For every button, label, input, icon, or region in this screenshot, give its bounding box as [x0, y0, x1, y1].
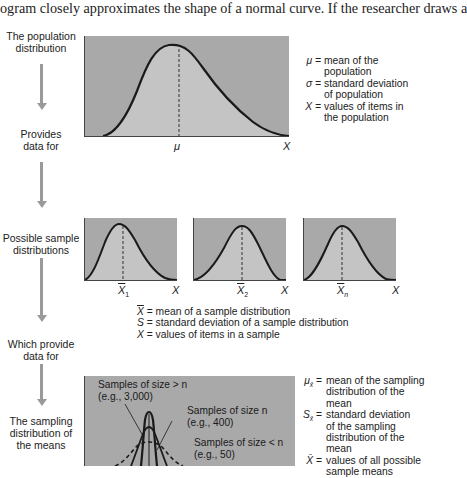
- legend-line: population: [324, 66, 432, 77]
- sample-curve-2: [194, 218, 286, 280]
- legend-line: distribution of the mean: [326, 386, 432, 409]
- sample-legend-row-values: X = values of items in a sample: [137, 329, 349, 340]
- sample-n-axis-label: X: [392, 284, 399, 296]
- legend-line: sample means: [326, 466, 432, 477]
- sample-distribution-panel-n: [303, 218, 396, 281]
- legend-text: values of items in the population: [324, 101, 432, 124]
- sample-2-mean-label: X2: [237, 284, 248, 298]
- legend-symbol: Sx̄ =: [296, 409, 326, 455]
- annotation-line: Samples of size > n: [98, 379, 187, 391]
- annotation-line: (e.g., 400): [187, 417, 267, 429]
- body-text-line: ogram closely approximates the shape of …: [0, 0, 432, 19]
- flow-arrow: [40, 364, 43, 400]
- population-distribution-panel: [84, 36, 289, 137]
- mean-subscript: n: [344, 291, 348, 298]
- legend-text: = standard deviation of a sample distrib…: [144, 317, 349, 328]
- legend-text: = mean of a sample distribution: [144, 306, 290, 317]
- label-line: distribution of: [0, 427, 82, 439]
- label-line: the means: [0, 439, 82, 451]
- legend-text: mean of the population: [324, 55, 432, 78]
- label-possible-sample-distributions: Possible sample distributions: [0, 232, 82, 256]
- legend-text: standard deviation of the sampling distr…: [326, 409, 432, 455]
- legend-line: of population: [324, 89, 432, 100]
- annotation-size-greater-than-n: Samples of size > n (e.g., 3,000): [98, 379, 187, 402]
- legend-line: mean of the sampling: [326, 375, 432, 386]
- label-line: distribution: [0, 42, 82, 54]
- sample-distribution-panel-2: [193, 218, 286, 281]
- label-which-provide-data-for: Which provide data for: [0, 338, 82, 362]
- symbol-eq: =: [316, 409, 322, 420]
- flow-arrowhead: [37, 315, 47, 322]
- legend-text: standard deviation of population: [324, 78, 432, 101]
- flow-arrowhead: [37, 399, 47, 406]
- label-population-distribution: The population distribution: [0, 30, 82, 54]
- label-line: Possible sample: [0, 232, 82, 244]
- sample-2-axis-label: X: [281, 284, 288, 296]
- legend-line: distribution of the mean: [326, 432, 432, 455]
- legend-line: of the sampling: [326, 421, 432, 432]
- symbol-main: S: [303, 409, 310, 420]
- legend-symbol: X̄ =: [296, 455, 326, 478]
- sampling-legend-row-sd: Sx̄ = standard deviation of the sampling…: [296, 409, 432, 455]
- flow-arrowhead: [37, 201, 47, 208]
- population-legend: μ = mean of the population σ = standard …: [299, 55, 432, 123]
- sampling-legend-row-xbar: X̄ = values of all possible sample means: [296, 455, 432, 478]
- label-line: distributions: [0, 244, 82, 256]
- symbol-main: X̄: [306, 455, 313, 466]
- legend-text: = values of items in a sample: [144, 329, 280, 340]
- sample-1-axis-label: X: [172, 284, 179, 296]
- population-curve: [85, 36, 289, 136]
- legend-row-mu: μ = mean of the population: [299, 55, 432, 78]
- legend-symbol: X: [137, 306, 144, 317]
- annotation-size-n: Samples of size n (e.g., 400): [187, 405, 267, 428]
- legend-row-x: X = values of items in the population: [299, 101, 432, 124]
- annotation-line: (e.g., 3,000): [98, 391, 187, 403]
- legend-line: mean of the: [324, 55, 432, 66]
- sample-curve-n: [304, 218, 396, 280]
- symbol-eq: =: [316, 455, 322, 466]
- label-sampling-distribution-of-means: The sampling distribution of the means: [0, 415, 82, 451]
- sample-curve-1: [85, 218, 177, 280]
- symbol-eq: =: [316, 375, 322, 386]
- sample-n-mean-label: Xn: [337, 284, 348, 298]
- mean-subscript: 2: [244, 291, 248, 298]
- label-line: data for: [0, 350, 82, 362]
- symbol-sub: x̄: [310, 415, 313, 422]
- label-line: The sampling: [0, 415, 82, 427]
- legend-line: the population: [324, 112, 432, 123]
- label-line: The population: [0, 30, 82, 42]
- label-line: Which provide: [0, 338, 82, 350]
- sample-1-mean-label: X1: [118, 284, 129, 298]
- legend-symbol: S: [137, 317, 144, 328]
- flow-arrow: [40, 258, 43, 316]
- label-line: data for: [0, 140, 82, 152]
- label-provides-data-for: Provides data for: [0, 128, 82, 152]
- sample-legend-row-sd: S = standard deviation of a sample distr…: [137, 317, 349, 328]
- sample-distribution-panel-1: [84, 218, 177, 281]
- sample-legend: X = mean of a sample distribution S = st…: [137, 306, 349, 340]
- legend-symbol: X =: [299, 101, 324, 124]
- sampling-legend: μx̄ = mean of the sampling distribution …: [296, 375, 432, 478]
- legend-symbol: σ =: [299, 78, 324, 101]
- legend-symbol: X: [137, 329, 144, 340]
- population-mean-label: μ: [174, 140, 180, 152]
- sampling-legend-row-mu: μx̄ = mean of the sampling distribution …: [296, 375, 432, 409]
- annotation-line: Samples of size < n: [194, 437, 283, 449]
- legend-row-sigma: σ = standard deviation of population: [299, 78, 432, 101]
- annotation-line: Samples of size n: [187, 405, 267, 417]
- flow-arrowhead: [37, 103, 47, 110]
- label-line: Provides: [0, 128, 82, 140]
- legend-line: values of all possible: [326, 455, 432, 466]
- legend-line: standard deviation: [324, 78, 432, 89]
- legend-text: values of all possible sample means: [326, 455, 432, 478]
- sample-legend-row-mean: X = mean of a sample distribution: [137, 306, 349, 317]
- legend-symbol: μ =: [299, 55, 324, 78]
- flow-arrow: [40, 162, 43, 202]
- mean-subscript: 1: [125, 291, 129, 298]
- legend-line: standard deviation: [326, 409, 432, 420]
- annotation-size-less-than-n: Samples of size < n (e.g., 50): [194, 437, 283, 460]
- legend-text: mean of the sampling distribution of the…: [326, 375, 432, 409]
- legend-symbol: μx̄ =: [296, 375, 326, 409]
- flow-arrow: [40, 64, 43, 104]
- legend-line: values of items in: [324, 101, 432, 112]
